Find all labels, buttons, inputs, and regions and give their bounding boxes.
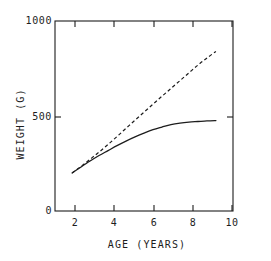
y-axis-title: WEIGHT (G) (16, 88, 26, 159)
x-axis-ticks-top (75, 21, 232, 27)
x-tick-label-4: 4 (111, 218, 118, 228)
series-line-dashed (72, 51, 216, 173)
x-tick-label-10: 10 (225, 218, 238, 228)
plot-frame (55, 21, 233, 211)
x-tick-label-6: 6 (151, 218, 158, 228)
chart-figure: 1000 500 0 2 4 6 8 10 AGE (YEARS) WEIGHT… (0, 0, 271, 261)
series-line-solid (72, 121, 216, 173)
x-axis-ticks (75, 205, 232, 211)
y-tick-label-500: 500 (32, 112, 52, 122)
x-tick-label-8: 8 (190, 218, 197, 228)
y-tick-label-1000: 1000 (26, 16, 52, 26)
x-axis-title: AGE (YEARS) (108, 240, 186, 250)
x-tick-label-2: 2 (72, 218, 79, 228)
y-tick-label-0: 0 (45, 206, 52, 216)
